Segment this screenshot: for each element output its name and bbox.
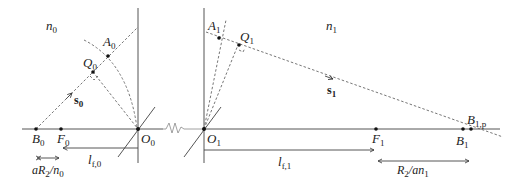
label-a1: A1 bbox=[207, 18, 220, 35]
label-offset-left: aR2/n0 bbox=[32, 163, 64, 179]
wavefront-arc-left bbox=[84, 40, 137, 128]
label-n1: n1 bbox=[326, 18, 337, 35]
vector-s1-arrow bbox=[325, 76, 333, 79]
label-b0: B0 bbox=[32, 131, 45, 148]
right-angle-right bbox=[239, 48, 245, 52]
ray-s1 bbox=[206, 32, 503, 137]
label-o1: O1 bbox=[207, 131, 221, 148]
point-a0 bbox=[106, 54, 110, 58]
point-o1 bbox=[202, 127, 206, 131]
break-zigzag bbox=[163, 123, 205, 133]
label-b1p: B1,p bbox=[467, 112, 487, 129]
label-q0: Q0 bbox=[83, 55, 97, 72]
point-o0 bbox=[136, 127, 140, 131]
label-s1: s1 bbox=[327, 83, 337, 99]
vector-s0-arrow bbox=[66, 93, 72, 99]
label-f1: F1 bbox=[371, 131, 384, 148]
label-lf0: lf,0 bbox=[88, 152, 102, 169]
right-panel: n1 A1 Q1 s1 O1 F1 B1 B1,p lf,1 R2/an1 bbox=[184, 8, 503, 179]
label-n0: n0 bbox=[46, 18, 58, 35]
label-lf1: lf,1 bbox=[278, 154, 291, 171]
line-a1-o1 bbox=[204, 20, 226, 129]
point-a1 bbox=[217, 36, 221, 40]
optics-diagram: n0 A0 Q0 s0 B0 F0 O0 lf,0 aR2/n0 bbox=[0, 0, 508, 186]
point-b1p bbox=[469, 127, 473, 131]
label-o0: O0 bbox=[141, 131, 155, 148]
perpendicular-q0 bbox=[93, 72, 138, 129]
point-b1 bbox=[461, 127, 465, 131]
perpendicular-q1 bbox=[204, 45, 238, 129]
label-f0: F0 bbox=[56, 131, 70, 148]
label-offset-right: R2/an1 bbox=[396, 163, 429, 179]
right-angle-left bbox=[90, 76, 98, 80]
label-q1: Q1 bbox=[240, 29, 254, 46]
left-panel: n0 A0 Q0 s0 B0 F0 O0 lf,0 aR2/n0 bbox=[22, 8, 163, 179]
label-s0: s0 bbox=[74, 93, 84, 109]
ray-s0 bbox=[36, 27, 138, 129]
label-b1: B1 bbox=[456, 133, 468, 150]
label-a0: A0 bbox=[102, 34, 116, 51]
